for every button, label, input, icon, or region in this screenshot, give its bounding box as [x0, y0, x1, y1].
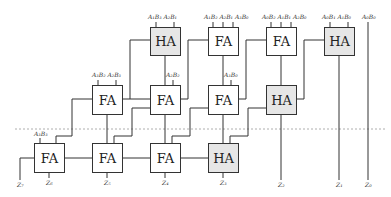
input-label-r1c4: A₀B₁ A₁B₀	[322, 13, 351, 20]
output-z5: Z₅	[104, 179, 111, 186]
output-z1: Z₁	[336, 181, 343, 188]
input-label-r2c1: A₃B₂ A₂B₃	[92, 71, 121, 78]
input-label-r1c2: A₁B₂ A₂B₁ A₃B₀	[204, 13, 248, 20]
full-adder-r3c1: FA	[34, 143, 65, 173]
output-z6: Z₆	[46, 179, 53, 186]
output-z7: Z₇	[17, 181, 24, 188]
output-z3: Z₃	[220, 179, 227, 186]
full-adder-r1c2: FA	[208, 27, 239, 56]
half-adder-r1c1: HA	[150, 27, 181, 56]
full-adder-r2c1: FA	[92, 85, 123, 115]
full-adder-r3c3: FA	[150, 143, 181, 173]
input-label-r1c1: A₁B₃ A₂B₁	[148, 13, 177, 20]
half-adder-r3c4: HA	[208, 143, 239, 173]
full-adder-r3c2: FA	[92, 143, 123, 173]
input-label-a0b0: A₀B₀	[362, 13, 376, 20]
full-adder-r2c3: FA	[208, 85, 239, 115]
output-z4: Z₄	[162, 179, 169, 186]
input-label-r2c2: A₂B₂	[166, 71, 180, 78]
output-z2: Z₂	[278, 181, 285, 188]
half-adder-r2c4: HA	[266, 85, 297, 115]
output-z0: Z₀	[365, 181, 372, 188]
full-adder-r1c3: FA	[266, 27, 297, 56]
input-label-r3c1: A₃B₃	[34, 130, 48, 137]
half-adder-r1c4: HA	[324, 27, 355, 56]
input-label-r1c3: A₀B₂ A₁B₁ A₂B₀	[262, 13, 306, 20]
input-label-r2c3: A₃B₀	[224, 71, 238, 78]
full-adder-r2c2: FA	[150, 85, 181, 115]
